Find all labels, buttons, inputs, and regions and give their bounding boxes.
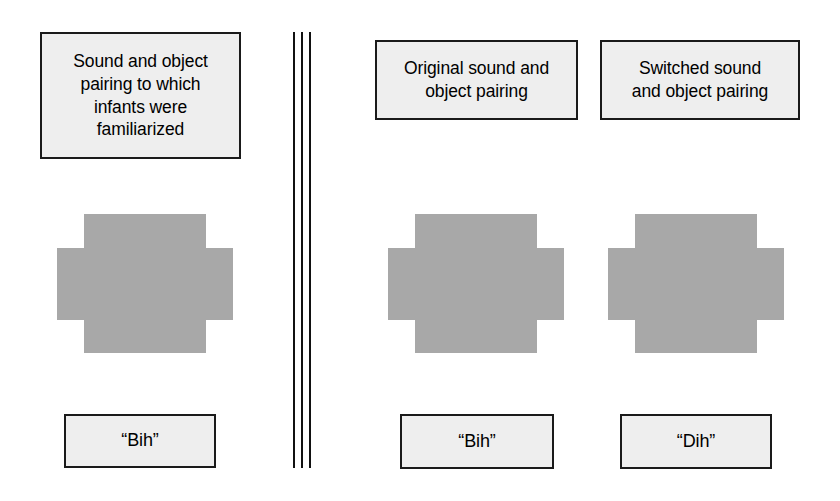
familiarization-sound-label-box: “Bih” — [64, 414, 216, 468]
panel-divider — [290, 32, 314, 468]
original-pairing-sound-label-box: “Bih” — [400, 414, 554, 469]
divider-line-2 — [301, 32, 303, 468]
object-vertical-bar — [415, 214, 537, 353]
original-pairing-header-box: Original sound and object pairing — [375, 40, 578, 120]
divider-line-3 — [309, 32, 311, 468]
figure-canvas: Sound and object pairing to which infant… — [0, 0, 840, 501]
object-vertical-bar — [635, 214, 757, 353]
switched-pairing-sound-label-box: “Dih” — [620, 414, 772, 469]
divider-line-1 — [293, 32, 295, 468]
familiarization-object-shape — [57, 214, 233, 353]
original-pairing-object-shape — [388, 214, 564, 353]
switched-pairing-object-shape — [608, 214, 784, 353]
familiarization-header-box: Sound and object pairing to which infant… — [40, 32, 241, 159]
switched-pairing-header-box: Switched sound and object pairing — [600, 40, 800, 120]
object-vertical-bar — [84, 214, 206, 353]
